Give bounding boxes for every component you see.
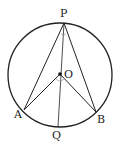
label-A: A: [13, 108, 23, 121]
center-point-O: [58, 72, 62, 76]
segment-OA: [24, 74, 60, 110]
label-B: B: [97, 113, 105, 126]
label-O: O: [64, 68, 73, 81]
label-Q: Q: [52, 129, 61, 142]
geometry-diagram: P O A B Q: [0, 0, 119, 150]
label-P: P: [60, 7, 68, 20]
angle-mark-O: [56, 79, 64, 81]
segment-PA: [24, 23, 64, 110]
